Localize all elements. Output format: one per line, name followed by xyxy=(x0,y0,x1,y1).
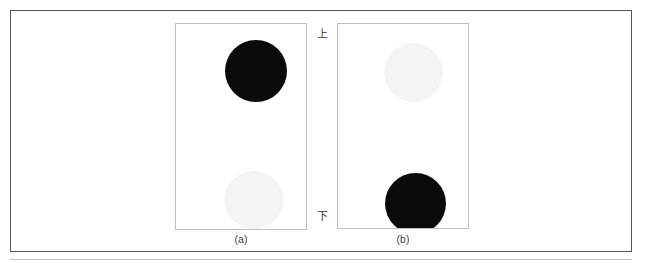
panel-a-caption: (a) xyxy=(175,233,307,246)
panel-a xyxy=(175,23,307,230)
page-bottom-rule xyxy=(10,259,632,260)
panel-b-top-blob xyxy=(384,43,443,102)
panel-a-bottom-blob xyxy=(224,171,284,229)
orientation-top-label: 上 xyxy=(311,29,333,41)
figure-body: 上 下 (a) (b) xyxy=(11,11,633,253)
panel-b xyxy=(337,23,469,229)
panel-a-top-blob xyxy=(225,40,287,102)
panel-b-bottom-blob xyxy=(385,173,446,229)
panel-b-caption: (b) xyxy=(337,233,469,246)
figure-frame: 上 下 (a) (b) xyxy=(10,10,632,252)
orientation-bottom-label: 下 xyxy=(311,211,333,223)
